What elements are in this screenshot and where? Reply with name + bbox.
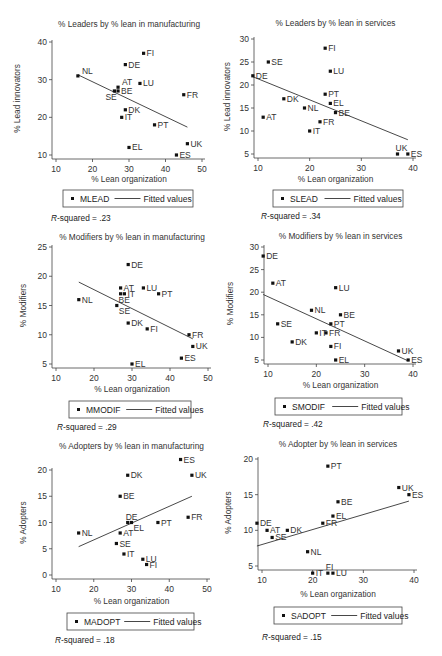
y-tick-label: 20 bbox=[250, 287, 260, 297]
point-label: SE bbox=[271, 57, 283, 67]
y-tick-label: 20 bbox=[38, 112, 48, 122]
x-tick-label: 30 bbox=[357, 163, 367, 173]
point-label: UK bbox=[190, 139, 202, 149]
data-point-de bbox=[124, 63, 127, 66]
data-point-at bbox=[262, 116, 265, 119]
data-point-uk bbox=[190, 474, 193, 477]
legend-fit-label: Fitted values bbox=[153, 617, 201, 627]
legend: MMODIFFitted values bbox=[69, 401, 203, 418]
data-point-nl bbox=[76, 74, 79, 77]
data-point-be bbox=[339, 313, 342, 316]
point-label: PT bbox=[161, 518, 172, 528]
fitted-line bbox=[253, 77, 408, 140]
point-label: FR bbox=[323, 117, 334, 127]
point-label: EL bbox=[339, 355, 350, 365]
point-label: NL bbox=[82, 66, 93, 76]
data-point-fr bbox=[318, 120, 321, 123]
point-label: BE bbox=[119, 295, 131, 305]
data-point-es bbox=[180, 357, 183, 360]
point-label: NL bbox=[315, 305, 326, 315]
data-point-lu bbox=[141, 558, 144, 561]
data-point-uk bbox=[191, 345, 194, 348]
point-label: FR bbox=[326, 518, 337, 528]
point-label: FI bbox=[326, 562, 334, 572]
legend-marker-icon bbox=[71, 197, 74, 200]
data-point-be bbox=[334, 111, 337, 114]
point-label: SE bbox=[105, 92, 117, 102]
point-label: IT bbox=[127, 549, 135, 559]
x-tick-label: 30 bbox=[127, 373, 137, 383]
x-tick-label: 10 bbox=[51, 373, 61, 383]
point-label: BE bbox=[344, 310, 356, 320]
point-label: SE bbox=[119, 306, 131, 316]
point-label: PT bbox=[162, 289, 173, 299]
legend-marker-icon bbox=[77, 408, 80, 411]
point-label: DK bbox=[295, 337, 307, 347]
y-tick-label: 15 bbox=[244, 490, 254, 500]
data-point-de bbox=[127, 263, 130, 266]
point-label: BE bbox=[123, 491, 135, 501]
chart-title: % Adopters by % lean in manufacturing bbox=[59, 441, 204, 451]
x-tick-label: 40 bbox=[409, 575, 419, 585]
data-point-it bbox=[308, 129, 311, 132]
point-label: FI bbox=[150, 560, 158, 570]
r-squared-text: R-squared = .42 bbox=[263, 419, 323, 429]
data-point-pt bbox=[156, 521, 159, 524]
data-point-fr bbox=[187, 333, 190, 336]
data-point-uk bbox=[397, 486, 400, 489]
legend-marker-icon bbox=[281, 197, 284, 200]
x-tick-label: 50 bbox=[197, 164, 207, 174]
x-tick-label: 10 bbox=[51, 164, 61, 174]
legend-fit-label: Fitted values bbox=[354, 194, 402, 204]
point-label: ES bbox=[179, 150, 191, 160]
point-label: SE bbox=[281, 319, 293, 329]
x-tick-label: 20 bbox=[89, 373, 99, 383]
x-tick-label: 40 bbox=[165, 584, 175, 594]
y-tick-label: 30 bbox=[250, 242, 260, 252]
data-point-el bbox=[331, 514, 334, 517]
legend: MADOPTFitted values bbox=[67, 613, 201, 630]
point-label: PT bbox=[158, 120, 169, 130]
point-label: DE bbox=[266, 251, 278, 261]
y-tick-label: 30 bbox=[240, 34, 250, 44]
chart-title: % Modifiers by % lean in services bbox=[279, 231, 403, 241]
point-label: ES bbox=[411, 149, 423, 159]
y-tick-label: 5 bbox=[248, 561, 253, 571]
data-point-pt bbox=[157, 292, 160, 295]
data-point-fi bbox=[324, 47, 327, 50]
point-label: FR bbox=[192, 330, 203, 340]
x-tick-label: 10 bbox=[51, 584, 61, 594]
y-tick-label: 30 bbox=[38, 75, 48, 85]
data-point-nl bbox=[77, 531, 80, 534]
legend: SMODIFFitted values bbox=[275, 398, 409, 415]
y-tick-label: 10 bbox=[240, 126, 250, 136]
x-tick-label: 20 bbox=[89, 584, 99, 594]
point-label: LU bbox=[146, 283, 157, 293]
point-label: FI bbox=[147, 48, 155, 58]
y-tick-label: 5 bbox=[42, 359, 47, 369]
x-tick-label: 30 bbox=[124, 164, 134, 174]
x-tick-label: 40 bbox=[161, 164, 171, 174]
data-point-nl bbox=[77, 298, 80, 301]
y-tick-label: 20 bbox=[240, 80, 250, 90]
data-point-at bbox=[271, 282, 274, 285]
point-label: NL bbox=[308, 103, 319, 113]
data-point-uk bbox=[186, 142, 189, 145]
legend: MLEADFitted values bbox=[63, 190, 193, 207]
data-point-it bbox=[311, 572, 314, 575]
data-point-it bbox=[315, 331, 318, 334]
data-point-at bbox=[119, 286, 122, 289]
data-point-dk bbox=[127, 321, 130, 324]
x-tick-label: 50 bbox=[203, 373, 213, 383]
x-axis-label: % Lean organization bbox=[298, 174, 374, 184]
data-point-nl bbox=[306, 550, 309, 553]
point-label: ES bbox=[411, 355, 423, 365]
x-axis-label: % Lean organization bbox=[303, 380, 379, 390]
data-point-fr bbox=[321, 522, 324, 525]
point-label: LU bbox=[143, 78, 154, 88]
data-point-at bbox=[116, 86, 119, 89]
data-point-be bbox=[336, 500, 339, 503]
point-label: UK bbox=[195, 470, 207, 480]
point-label: LU bbox=[336, 568, 347, 578]
point-label: EL bbox=[134, 523, 145, 533]
